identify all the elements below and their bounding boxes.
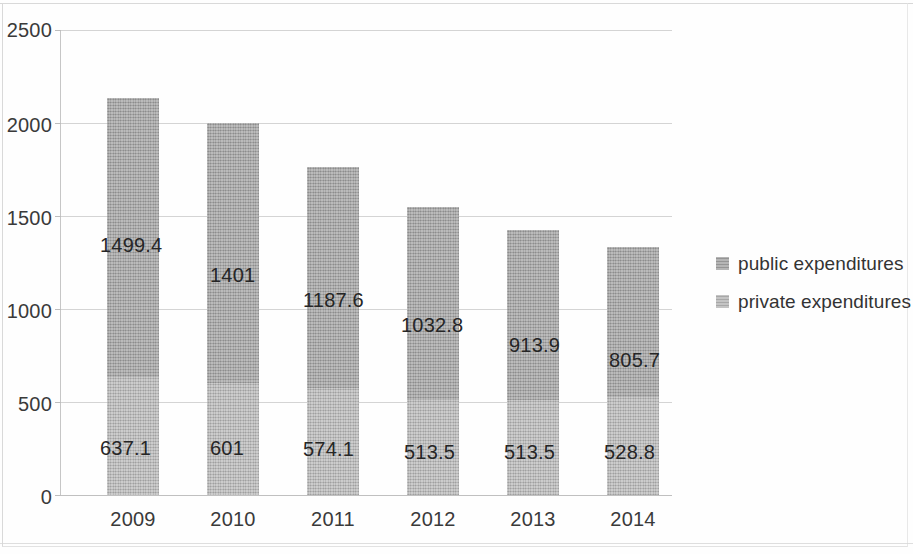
gridline-2500 <box>60 30 672 31</box>
y-tick-label-1500: 1500 <box>2 208 52 228</box>
bar-value-label-private-2013: 513.5 <box>504 442 555 462</box>
x-tick-label-2010: 2010 <box>177 508 289 530</box>
y-tick-label-1000: 1000 <box>2 301 52 321</box>
bar-value-label-public-2010: 1401 <box>210 265 255 285</box>
legend-item-public-expenditures[interactable]: public expenditures <box>716 248 906 278</box>
bar-segment-public-2011[interactable] <box>307 167 359 388</box>
bar-segment-private-2009[interactable] <box>107 377 159 496</box>
bar-segment-public-2014[interactable] <box>607 247 659 397</box>
bar-group-2009[interactable] <box>107 98 159 495</box>
bar-value-label-private-2010: 601 <box>210 438 244 458</box>
bar-value-label-public-2014: 805.7 <box>609 350 660 370</box>
bar-segment-public-2010[interactable] <box>207 123 259 384</box>
frame-bottom-rule <box>0 543 913 544</box>
bar-value-label-public-2009: 1499.4 <box>100 235 162 255</box>
legend-label-public: public expenditures <box>738 253 904 274</box>
legend-label-private: private expenditures <box>738 291 911 312</box>
plot-area: 1499.4 1401 1187.6 1032.8 913.9 805.7 63… <box>60 30 672 495</box>
bar-value-label-public-2011: 1187.6 <box>303 290 364 310</box>
legend-swatch-icon-private <box>716 295 729 308</box>
legend-item-private-expenditures[interactable]: private expenditures <box>716 286 906 316</box>
bar-segment-public-2013[interactable] <box>507 230 559 400</box>
x-tick-label-2014: 2014 <box>577 508 689 530</box>
gridline-zero-baseline <box>60 495 672 496</box>
y-tick-label-2000: 2000 <box>2 115 52 135</box>
x-tick-label-2011: 2011 <box>277 508 389 530</box>
bar-value-label-private-2011: 574.1 <box>303 439 354 459</box>
legend-swatch-icon-public <box>716 257 729 270</box>
bar-segment-public-2012[interactable] <box>407 207 459 399</box>
chart-container: 2500 2000 1500 1000 500 0 <box>0 0 913 554</box>
x-tick-label-2012: 2012 <box>377 508 489 530</box>
y-tick-label-0: 0 <box>2 487 52 507</box>
y-tick-label-2500: 2500 <box>2 20 52 40</box>
x-tick-label-2009: 2009 <box>77 508 189 530</box>
frame-top-rule <box>0 3 913 4</box>
bar-value-label-public-2013: 913.9 <box>509 335 560 355</box>
bar-value-label-public-2012: 1032.8 <box>401 315 463 335</box>
bar-value-label-private-2014: 528.8 <box>604 442 655 462</box>
bar-value-label-private-2009: 637.1 <box>100 438 151 458</box>
bar-value-label-private-2012: 513.5 <box>404 442 455 462</box>
chart-legend: public expenditures private expenditures <box>716 248 906 324</box>
y-tick-label-500: 500 <box>2 394 52 414</box>
y-axis-label-group: 2500 2000 1500 1000 500 0 <box>0 0 52 554</box>
x-tick-label-2013: 2013 <box>477 508 589 530</box>
